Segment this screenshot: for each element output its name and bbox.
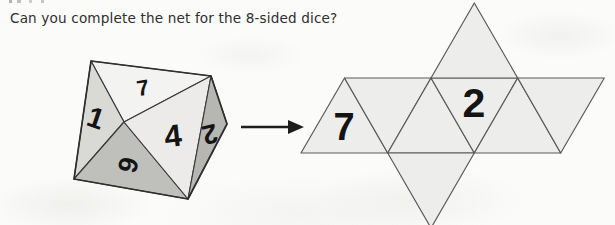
worksheet-page: Can you complete the net for the 8-sided…: [0, 0, 615, 225]
net-triangle-flap-bottom: [388, 153, 475, 225]
die-figure: 7 1 6 4 2: [74, 61, 227, 199]
arrow-head-icon: [288, 120, 304, 134]
net-triangle-flap-top: [431, 3, 518, 78]
net-label-7: 7: [333, 106, 354, 148]
net-figure: 7 2: [301, 3, 604, 225]
figure-canvas: 7 1 6 4 2 7 2: [0, 0, 615, 225]
maps-to-arrow: [241, 120, 304, 134]
net-label-2: 2: [463, 80, 486, 126]
